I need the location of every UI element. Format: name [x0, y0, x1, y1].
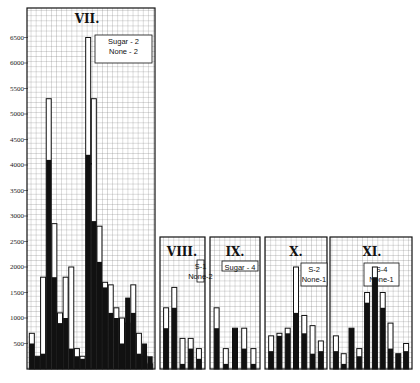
bar-filled	[35, 356, 40, 369]
bar-filled	[125, 298, 130, 369]
bar-filled	[58, 323, 63, 369]
bar-filled	[277, 336, 282, 369]
y-tick-label: 4000	[10, 161, 25, 169]
y-tick-label: 5000	[10, 110, 25, 118]
panel-legend-text: Sugar - 2	[108, 37, 139, 46]
panel-title: X.	[289, 245, 303, 259]
bar-filled	[164, 328, 169, 369]
bar-filled	[310, 354, 315, 369]
panel-x: X.S-2None-1	[265, 237, 327, 369]
bar-filled	[214, 328, 219, 369]
panel-legend-text: None-2	[188, 272, 213, 281]
bar-filled	[223, 364, 228, 369]
bar-filled	[180, 364, 185, 369]
bar-filled	[269, 351, 274, 369]
bar-filled	[404, 351, 409, 369]
bar-filled	[333, 351, 338, 369]
bar-filled	[91, 221, 96, 369]
y-tick-label: 500	[14, 340, 25, 348]
bar-filled	[108, 313, 113, 369]
panels: VII.Sugar - 2None - 2VIII.S-1None-2IX.Su…	[27, 8, 412, 369]
bar-filled	[52, 277, 57, 369]
bar-filled	[120, 344, 125, 370]
bar-filled	[103, 287, 108, 369]
bar-filled	[365, 303, 370, 369]
bar-filled	[388, 349, 393, 369]
y-tick-label: 6500	[10, 34, 25, 42]
panel-legend-text: Sugar - 4	[225, 263, 256, 272]
bar-filled	[349, 328, 354, 369]
bar-filled	[114, 318, 119, 369]
panel-vii: VII.Sugar - 2None - 2	[27, 8, 155, 369]
panel-legend-text: None - 2	[109, 47, 138, 56]
bar-filled	[285, 333, 290, 369]
bar-filled	[196, 359, 201, 369]
stray-mark	[89, 163, 92, 165]
y-axis: 5001000150020002500300035004000450050005…	[10, 34, 28, 348]
panel-title: VIII.	[166, 245, 197, 259]
bar-filled	[172, 308, 177, 369]
bar-filled	[142, 344, 147, 370]
y-tick-label: 4500	[10, 136, 25, 144]
bar-filled	[294, 313, 299, 369]
panel-title: VII.	[74, 12, 100, 26]
bar-filled	[69, 349, 74, 369]
bar-filled	[41, 354, 46, 369]
bar-filled	[372, 277, 377, 369]
chart: 5001000150020002500300035004000450050005…	[0, 0, 420, 383]
bar-filled	[341, 364, 346, 369]
bar-filled	[86, 155, 91, 369]
bar-filled	[242, 349, 247, 369]
y-tick-label: 1500	[10, 289, 25, 297]
bar-filled	[29, 344, 34, 370]
bar-filled	[136, 354, 141, 369]
bar-filled	[380, 308, 385, 369]
panel-xi: XI.S-4None-1	[330, 237, 412, 369]
bar-filled	[251, 364, 256, 369]
panel-legend-text: None-1	[302, 275, 327, 284]
panel-legend-text: S-2	[308, 265, 320, 274]
bar-filled	[46, 160, 51, 369]
y-tick-label: 3500	[10, 187, 25, 195]
y-tick-label: 2000	[10, 263, 25, 271]
panel-title: IX.	[225, 245, 244, 259]
y-tick-label: 6000	[10, 59, 25, 67]
y-tick-label: 2500	[10, 238, 25, 246]
bar-filled	[80, 359, 85, 369]
panel-viii: VIII.S-1None-2	[160, 237, 213, 369]
bar-filled	[63, 318, 68, 369]
y-tick-label: 3000	[10, 212, 25, 220]
bar-filled	[188, 349, 193, 369]
panel-title: XI.	[362, 245, 381, 259]
bar-filled	[396, 354, 401, 369]
y-tick-label: 5500	[10, 85, 25, 93]
bar-filled	[148, 356, 153, 369]
panel-ix: IX.Sugar - 4	[210, 237, 260, 369]
bar-filled	[357, 356, 362, 369]
bar-filled	[74, 356, 79, 369]
y-tick-label: 1000	[10, 314, 25, 322]
panel-legend-text: S-1	[195, 262, 207, 271]
bar-filled	[233, 328, 238, 369]
bar-filled	[97, 262, 102, 369]
bar-filled	[318, 351, 323, 369]
bar-filled	[131, 313, 136, 369]
bar-filled	[302, 333, 307, 369]
